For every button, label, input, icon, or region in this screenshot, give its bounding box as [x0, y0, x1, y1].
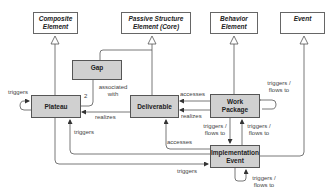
wp-to-event-label: triggers / flows to [201, 123, 229, 137]
gap-label: Gap [91, 64, 104, 72]
work-package-label: Work Package [220, 98, 250, 114]
event-accesses-deliverable-label: accesses [167, 139, 192, 146]
plateau-box: Plateau [31, 95, 81, 118]
behavior-element-label: Behavior Element [211, 15, 257, 31]
passive-structure-element-label: Passive Structure Element (Core) [122, 15, 190, 31]
event-triggers-plateau-label: triggers [74, 129, 94, 136]
associated-with-label: associated with [97, 84, 129, 98]
implementation-event-label: Implementation Event [211, 149, 259, 165]
event-self-triggers-label: triggers / flows to [250, 175, 278, 189]
wp-self-triggers-label: triggers / flows to [265, 80, 293, 94]
deliverable-box: Deliverable [130, 95, 179, 118]
implementation-event-box: Implementation Event [210, 145, 260, 168]
gap-multiplicity-label: 2 [84, 93, 87, 100]
plateau-label: Plateau [44, 103, 67, 111]
wp-realizes-deliverable-label: realizes [181, 113, 202, 120]
wp-accesses-deliverable-label: accesses [180, 91, 205, 98]
gap-box: Gap [72, 60, 122, 80]
deliverable-label: Deliverable [137, 103, 172, 111]
event-box: Event [280, 12, 325, 34]
passive-structure-element-box: Passive Structure Element (Core) [121, 12, 191, 34]
plateau-self-triggers-label: triggers [8, 89, 28, 96]
composite-element-box: Composite Element [33, 12, 78, 34]
work-package-box: Work Package [210, 94, 260, 118]
behavior-element-box: Behavior Element [210, 12, 258, 34]
plateau-triggers-event-label: triggers [177, 168, 197, 175]
event-label: Event [294, 15, 312, 23]
composite-element-label: Composite Element [34, 15, 77, 31]
deliverable-realizes-plateau-label: realizes [95, 114, 116, 121]
event-to-wp-label: triggers / flows to [245, 123, 273, 137]
